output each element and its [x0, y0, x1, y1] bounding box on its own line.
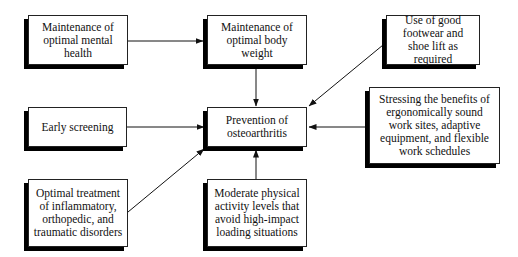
- box-early-screening: Early screening: [28, 107, 127, 147]
- label-footwear: Use of good footwear and shoe lift as re…: [391, 14, 475, 66]
- label-early-screening: Early screening: [42, 121, 114, 134]
- label-physical-activity: Moderate physical activity levels that a…: [212, 187, 302, 239]
- box-physical-activity: Moderate physical activity levels that a…: [207, 179, 307, 247]
- box-footwear: Use of good footwear and shoe lift as re…: [386, 15, 480, 65]
- box-prevention: Prevention of osteoarthritis: [207, 107, 307, 147]
- box-ergonomics: Stressing the benefits of ergonomically …: [369, 87, 500, 164]
- box-treatment: Optimal treatment of inflammatory, ortho…: [28, 179, 128, 247]
- label-ergonomics: Stressing the benefits of ergonomically …: [374, 93, 495, 158]
- label-prevention: Prevention of osteoarthritis: [212, 114, 302, 140]
- arrow-treatment-to-prevention: [128, 149, 204, 212]
- label-body-weight: Maintenance of optimal body weight: [212, 21, 302, 60]
- label-mental-health: Maintenance of optimal mental health: [33, 21, 123, 60]
- label-treatment: Optimal treatment of inflammatory, ortho…: [33, 187, 123, 239]
- box-body-weight: Maintenance of optimal body weight: [207, 15, 307, 65]
- box-mental-health: Maintenance of optimal mental health: [28, 15, 128, 65]
